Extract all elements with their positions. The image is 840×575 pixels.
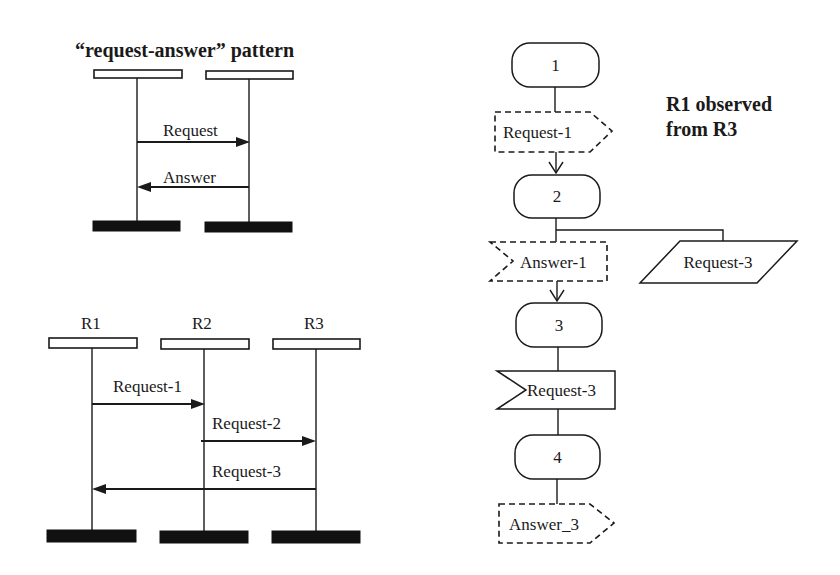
message-request: Request (137, 121, 250, 147)
signal-label: Request-1 (503, 123, 572, 142)
lifeline-label-r2: R2 (192, 314, 212, 333)
signal-label: Answer_3 (509, 515, 579, 534)
lifeline-end-r2 (160, 531, 248, 543)
flowchart-title-line2: from R3 (666, 118, 737, 140)
arrowhead-right-icon (191, 399, 205, 409)
state-label: 3 (555, 316, 564, 335)
lifeline-head-r3 (273, 339, 360, 349)
lifeline-end-r1 (47, 530, 136, 542)
message-label: Answer (163, 168, 216, 187)
arrowhead-left-icon (92, 484, 106, 494)
flowchart-title-line1: R1 observed (666, 93, 772, 115)
message-label: Request (163, 121, 218, 140)
message-request-2: Request-2 (201, 414, 316, 446)
lifeline-label-r3: R3 (304, 314, 324, 333)
lifeline-head-left (94, 70, 182, 78)
lifeline-end-r3 (272, 531, 360, 543)
pattern-title: “request-answer” pattern (75, 39, 294, 62)
r1-observed-flowchart: R1 observed from R3 1 Request-1 2 Answer… (490, 43, 797, 543)
message-label: Request-1 (113, 377, 182, 396)
branch-connector (556, 230, 723, 241)
lifeline-label-r1: R1 (81, 314, 101, 333)
diagram-canvas: “request-answer” pattern Request Answer … (0, 0, 840, 575)
request-answer-pattern: “request-answer” pattern Request Answer (75, 39, 294, 232)
lifeline-end-left (93, 221, 180, 231)
message-label: Request-2 (212, 414, 281, 433)
lifeline-head-r2 (161, 339, 249, 349)
message-answer: Answer (137, 168, 249, 192)
three-party-sequence: R1 R2 R3 Request-1 Request-2 Request-3 (47, 314, 360, 543)
state-label: 2 (553, 187, 562, 206)
lifeline-head-r1 (49, 338, 137, 348)
state-label: 4 (553, 448, 562, 467)
state-label: 1 (551, 56, 560, 75)
lifeline-end-right (205, 222, 292, 232)
arrowhead-right-icon (236, 137, 250, 147)
signal-label: Request-3 (527, 381, 596, 400)
message-label: Request-3 (212, 462, 281, 481)
message-request-1: Request-1 (92, 377, 205, 409)
arrowhead-right-icon (302, 436, 316, 446)
signal-label: Request-3 (684, 253, 753, 272)
signal-label: Answer-1 (520, 253, 587, 272)
lifeline-head-right (206, 71, 293, 79)
arrowhead-left-icon (137, 182, 151, 192)
